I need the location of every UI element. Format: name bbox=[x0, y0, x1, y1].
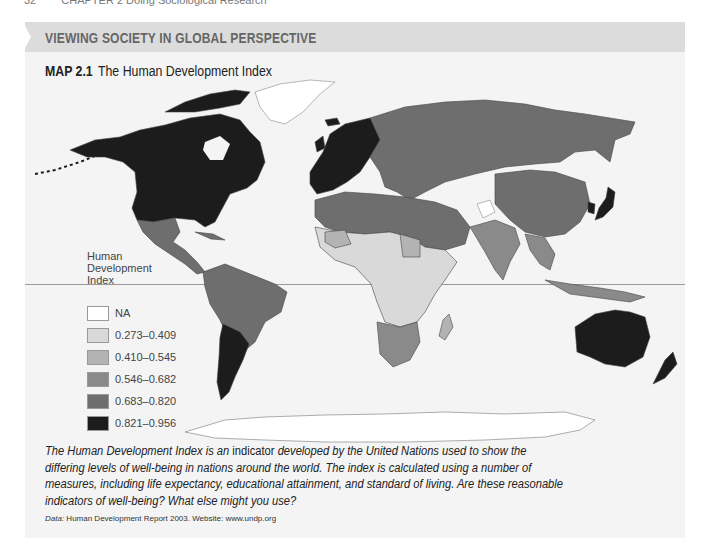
data-source: Data: Human Development Report 2003. Web… bbox=[45, 514, 276, 523]
region-north-america bbox=[70, 114, 265, 227]
caption-term: indicator bbox=[232, 444, 274, 458]
source-label: Data: bbox=[45, 514, 64, 523]
legend-swatch bbox=[87, 372, 109, 387]
legend-title-line: Human bbox=[87, 250, 177, 262]
legend-item-5: 0.821–0.956 bbox=[87, 412, 177, 434]
region-australia bbox=[575, 310, 650, 367]
legend-label: 0.821–0.956 bbox=[115, 417, 176, 429]
legend-swatch bbox=[87, 416, 109, 431]
region-uk bbox=[315, 136, 325, 152]
legend-item-3: 0.546–0.682 bbox=[87, 368, 177, 390]
region-madagascar bbox=[439, 314, 453, 340]
region-greenland bbox=[255, 80, 335, 124]
region-new-zealand bbox=[653, 352, 677, 384]
legend-title-line: Index bbox=[87, 274, 177, 286]
legend-item-1: 0.273–0.409 bbox=[87, 324, 177, 346]
region-caribbean bbox=[195, 232, 225, 240]
region-iceland bbox=[325, 118, 340, 126]
region-southern-africa bbox=[377, 322, 420, 367]
source-text: Human Development Report 2003. Website: … bbox=[64, 514, 276, 523]
legend-label: NA bbox=[115, 307, 130, 319]
region-arctic-islands bbox=[165, 90, 250, 112]
legend-item-4: 0.683–0.820 bbox=[87, 390, 177, 412]
legend-item-na: NA bbox=[87, 302, 177, 324]
region-indonesia bbox=[545, 280, 645, 302]
legend-swatch bbox=[87, 306, 109, 321]
legend-swatch bbox=[87, 328, 109, 343]
region-south-asia bbox=[470, 220, 520, 280]
legend-swatch bbox=[87, 350, 109, 365]
map-caption: The Human Development Index is an indica… bbox=[45, 443, 566, 509]
legend-items: NA 0.273–0.409 0.410–0.545 0.546–0.682 0… bbox=[87, 302, 177, 434]
running-head: 32 CHAPTER 2 Doing Sociological Research bbox=[24, 0, 267, 6]
legend-item-2: 0.410–0.545 bbox=[87, 346, 177, 368]
region-south-korea bbox=[588, 202, 595, 214]
region-antarctica bbox=[185, 412, 595, 442]
legend-swatch bbox=[87, 394, 109, 409]
caption-text: The Human Development Index is an bbox=[45, 444, 232, 458]
region-afghanistan bbox=[477, 200, 495, 218]
legend-label: 0.410–0.545 bbox=[115, 351, 176, 363]
page-number: 32 bbox=[24, 0, 36, 6]
region-southeast-asia bbox=[525, 234, 555, 270]
legend-title-line: Development bbox=[87, 262, 177, 274]
region-japan bbox=[595, 187, 615, 220]
legend-title: Human Development Index bbox=[87, 250, 177, 286]
legend-label: 0.273–0.409 bbox=[115, 329, 176, 341]
legend-label: 0.683–0.820 bbox=[115, 395, 176, 407]
chapter-title: CHAPTER 2 Doing Sociological Research bbox=[61, 0, 266, 6]
legend-label: 0.546–0.682 bbox=[115, 373, 176, 385]
map-legend: Human Development Index NA 0.273–0.409 0… bbox=[87, 250, 177, 434]
